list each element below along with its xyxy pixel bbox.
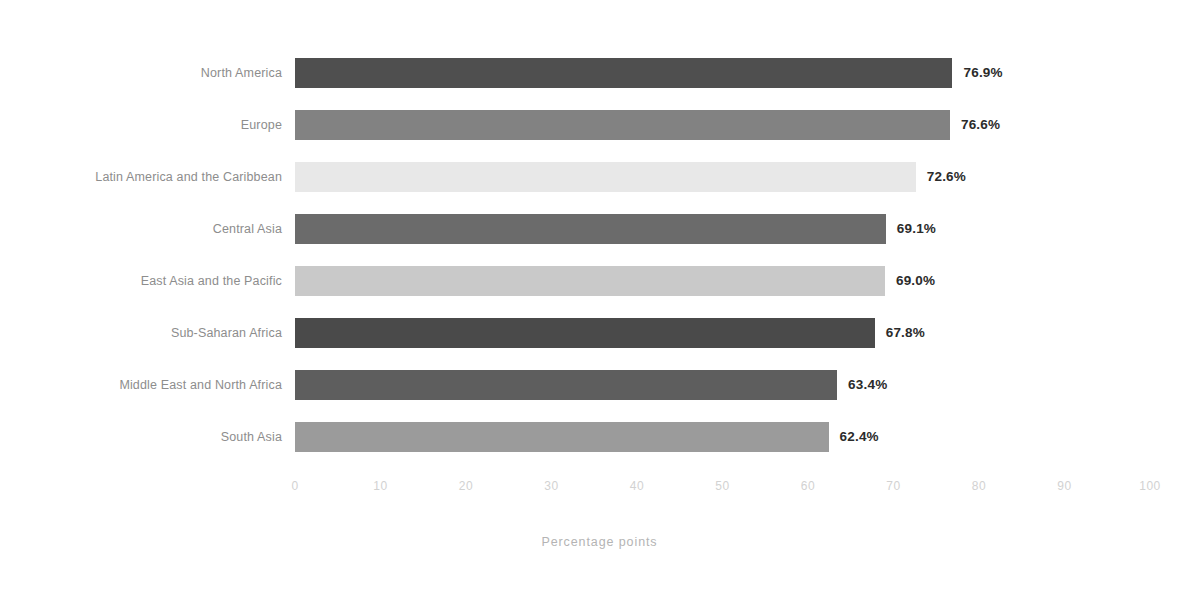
bar[interactable]: 76.6% — [295, 110, 950, 140]
bar[interactable]: 62.4% — [295, 422, 829, 452]
bar[interactable]: 67.8% — [295, 318, 875, 348]
bar-fill — [295, 318, 875, 348]
bar-fill — [295, 162, 916, 192]
x-tick-label: 30 — [544, 479, 558, 493]
bar-fill — [295, 110, 950, 140]
x-tick-label: 70 — [886, 479, 900, 493]
x-tick-label: 90 — [1057, 479, 1071, 493]
bar-fill — [295, 214, 886, 244]
category-label: North America — [201, 58, 295, 88]
bar-fill — [295, 266, 885, 296]
bar-value-label: 62.4% — [840, 422, 879, 452]
x-tick-label: 10 — [373, 479, 387, 493]
bar-chart: North America76.9%Europe76.6%Latin Ameri… — [0, 0, 1199, 595]
category-label: Middle East and North Africa — [119, 370, 295, 400]
x-tick-label: 40 — [630, 479, 644, 493]
bar[interactable]: 69.1% — [295, 214, 886, 244]
category-label: Sub-Saharan Africa — [171, 318, 295, 348]
category-label: Central Asia — [213, 214, 295, 244]
category-label: Latin America and the Caribbean — [95, 162, 295, 192]
bar-value-label: 69.1% — [897, 214, 936, 244]
bar-value-label: 72.6% — [927, 162, 966, 192]
bar-row: Central Asia69.1% — [0, 214, 1199, 244]
bar-row: Sub-Saharan Africa67.8% — [0, 318, 1199, 348]
bar[interactable]: 76.9% — [295, 58, 952, 88]
x-tick-label: 20 — [459, 479, 473, 493]
bar-row: North America76.9% — [0, 58, 1199, 88]
bar-value-label: 76.6% — [961, 110, 1000, 140]
plot-area: North America76.9%Europe76.6%Latin Ameri… — [0, 0, 1199, 470]
category-label: East Asia and the Pacific — [141, 266, 295, 296]
bar-value-label: 67.8% — [886, 318, 925, 348]
bar[interactable]: 69.0% — [295, 266, 885, 296]
x-tick-label: 0 — [291, 479, 298, 493]
x-tick-label: 100 — [1139, 479, 1161, 493]
bar-fill — [295, 58, 952, 88]
bar[interactable]: 72.6% — [295, 162, 916, 192]
x-tick-label: 80 — [972, 479, 986, 493]
x-tick-label: 60 — [801, 479, 815, 493]
bar[interactable]: 63.4% — [295, 370, 837, 400]
bar-value-label: 63.4% — [848, 370, 887, 400]
bar-fill — [295, 422, 829, 452]
bar-row: Latin America and the Caribbean72.6% — [0, 162, 1199, 192]
x-axis: 0102030405060708090100 — [0, 479, 1199, 501]
bar-row: Europe76.6% — [0, 110, 1199, 140]
bar-row: East Asia and the Pacific69.0% — [0, 266, 1199, 296]
bar-row: Middle East and North Africa63.4% — [0, 370, 1199, 400]
bar-value-label: 69.0% — [896, 266, 935, 296]
x-axis-title: Percentage points — [0, 535, 1199, 549]
category-label: Europe — [241, 110, 295, 140]
category-label: South Asia — [221, 422, 295, 452]
bar-value-label: 76.9% — [963, 58, 1002, 88]
bar-row: South Asia62.4% — [0, 422, 1199, 452]
x-tick-label: 50 — [715, 479, 729, 493]
bar-fill — [295, 370, 837, 400]
